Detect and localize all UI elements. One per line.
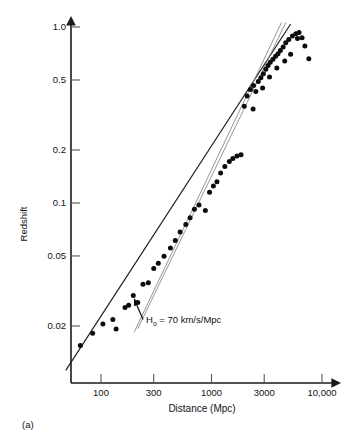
data-points-group xyxy=(78,30,312,348)
y-tick-label: 0.1 xyxy=(53,197,66,208)
data-point xyxy=(192,207,197,212)
x-axis-title: Distance (Mpc) xyxy=(168,403,235,414)
hubble-constant-label: Ho = 70 km/s/Mpc xyxy=(146,314,222,327)
data-point xyxy=(267,74,272,79)
data-point xyxy=(251,107,256,112)
y-axis-ticks xyxy=(71,27,80,326)
data-point xyxy=(78,343,83,348)
x-axis-tick-labels: 1003001000300010,000 xyxy=(93,387,336,398)
data-point xyxy=(239,152,244,157)
data-point xyxy=(295,36,300,41)
data-point xyxy=(188,215,193,220)
data-point xyxy=(183,222,188,227)
data-point xyxy=(222,164,227,169)
data-point xyxy=(178,229,183,234)
y-tick-label: 0.05 xyxy=(48,250,67,261)
data-point xyxy=(251,83,256,88)
data-point xyxy=(114,327,119,332)
data-point xyxy=(306,56,311,61)
data-point xyxy=(248,87,253,92)
plot-axes xyxy=(71,24,333,383)
data-point xyxy=(146,280,151,285)
data-point xyxy=(302,43,307,48)
data-point xyxy=(297,30,302,35)
data-point xyxy=(261,71,266,76)
data-point xyxy=(214,179,219,184)
data-point xyxy=(90,331,95,336)
x-tick-label: 10,000 xyxy=(307,387,336,398)
y-tick-label: 1.0 xyxy=(53,21,66,32)
data-point xyxy=(151,266,156,271)
data-point xyxy=(260,86,265,91)
y-axis-tick-labels: 1.00.50.20.10.050.02 xyxy=(48,21,67,331)
data-point xyxy=(207,190,212,195)
hubble-diagram-figure: 1.00.50.20.10.050.02 1003001000300010,00… xyxy=(0,0,344,438)
annotation-rest: = 70 km/s/Mpc xyxy=(157,314,222,325)
data-point xyxy=(131,293,136,298)
y-tick-label: 0.5 xyxy=(53,74,66,85)
data-point xyxy=(173,238,178,243)
x-tick-label: 100 xyxy=(93,387,109,398)
x-axis-ticks xyxy=(101,374,322,383)
data-point xyxy=(168,245,173,250)
data-point xyxy=(203,208,208,213)
x-tick-label: 1000 xyxy=(201,387,222,398)
data-point xyxy=(211,183,216,188)
x-tick-label: 300 xyxy=(146,387,162,398)
data-point xyxy=(100,322,105,327)
data-point xyxy=(282,59,287,64)
data-point xyxy=(126,303,131,308)
data-point xyxy=(141,282,146,287)
data-point xyxy=(300,35,305,40)
data-point xyxy=(156,261,161,266)
panel-label: (a) xyxy=(22,419,34,430)
y-tick-label: 0.02 xyxy=(48,320,67,331)
data-point xyxy=(196,202,201,207)
plot-canvas: 1.00.50.20.10.050.02 1003001000300010,00… xyxy=(0,0,344,438)
y-axis-title: Redshift xyxy=(18,206,29,241)
data-point xyxy=(110,317,115,322)
data-point xyxy=(253,89,258,94)
data-point xyxy=(288,52,293,57)
data-point xyxy=(218,171,223,176)
data-point xyxy=(286,37,291,42)
data-point xyxy=(281,44,286,49)
data-point xyxy=(245,94,250,99)
fit-line xyxy=(134,23,281,332)
annotation-group: Ho = 70 km/s/Mpc xyxy=(134,299,221,327)
y-tick-label: 0.2 xyxy=(53,144,66,155)
data-point xyxy=(242,104,247,109)
x-tick-label: 3000 xyxy=(254,387,275,398)
data-point xyxy=(274,65,279,70)
data-point xyxy=(162,254,167,259)
